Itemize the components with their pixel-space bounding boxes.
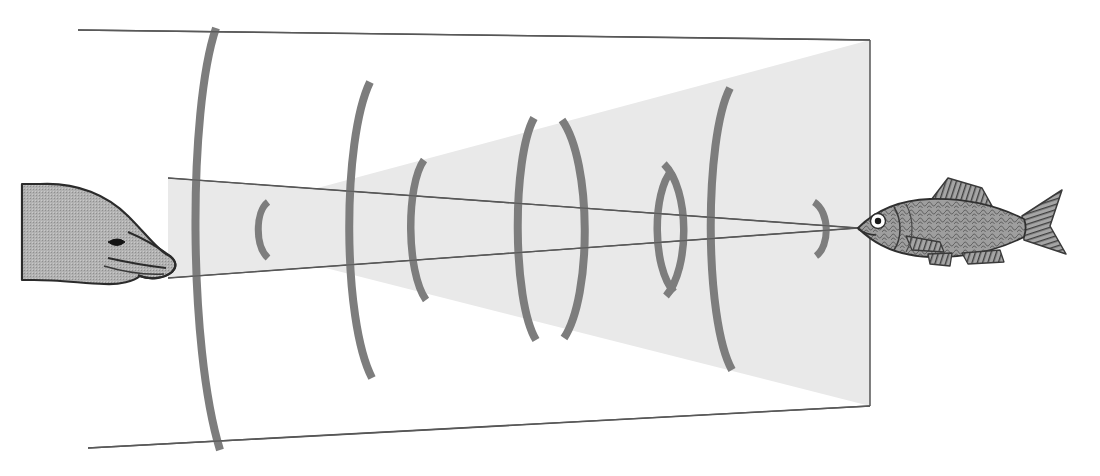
- fish-anal-fin: [962, 250, 1004, 264]
- outgoing-cone-edge-top-overlay: [78, 30, 870, 40]
- fish-caudal-fin: [1022, 190, 1066, 254]
- dolphin: [22, 184, 175, 284]
- fish-pelvic-fin: [928, 253, 952, 266]
- fish-eye-pupil-icon: [875, 218, 881, 224]
- echolocation-figure: [0, 0, 1100, 476]
- outgoing-cone-edge-bottom-overlay: [88, 406, 870, 448]
- dolphin-head-body: [22, 184, 175, 284]
- diagram-canvas: [0, 0, 1100, 476]
- fish: [858, 178, 1066, 266]
